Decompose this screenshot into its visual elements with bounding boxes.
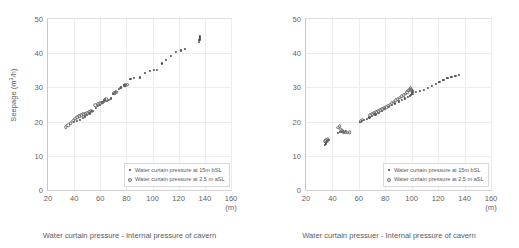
- data-point-series-0: [108, 99, 110, 101]
- data-point-series-0: [434, 83, 436, 85]
- data-point-series-0: [419, 90, 421, 92]
- gridline-vertical: [359, 19, 360, 190]
- chart-panel-seepage: Seepage (m3/h) 20406080100120140160(m)01…: [0, 0, 259, 248]
- data-point-series-0: [149, 70, 151, 72]
- data-point-series-0: [184, 48, 186, 50]
- x-axis-tick-label: 40: [70, 194, 78, 203]
- y-axis-tick-label: 0: [39, 186, 43, 195]
- data-point-series-1: [348, 130, 352, 134]
- data-point-series-0: [430, 85, 432, 87]
- gridline-horizontal: [306, 156, 491, 157]
- data-point-series-0: [110, 97, 112, 99]
- data-point-series-1: [410, 89, 414, 93]
- y-axis-tick-label: 20: [35, 117, 43, 126]
- x-axis-tick-label: 100: [146, 194, 159, 203]
- x-axis-tick-label: 80: [122, 194, 130, 203]
- data-point-series-1: [119, 86, 123, 90]
- data-point-series-0: [415, 91, 417, 93]
- x-axis-tick-label: 60: [96, 194, 104, 203]
- x-axis-unit-label: (m): [225, 203, 236, 212]
- legend-item-2.5m-asl: Water curtain pressure at 2.5 m aSL: [387, 175, 484, 183]
- x-axis-tick-label: 120: [432, 194, 445, 203]
- y-axis-tick-label: 30: [293, 83, 301, 92]
- gridline-horizontal: [306, 53, 491, 54]
- legend-item-15m-bsl: Water curtain pressure at 15m bSL: [387, 166, 484, 174]
- y-axis-tick-label: 10: [293, 151, 301, 160]
- gridline-vertical: [491, 19, 492, 190]
- x-axis-tick-label: 160: [485, 194, 498, 203]
- figure-container: Seepage (m3/h) 20406080100120140160(m)01…: [0, 0, 519, 248]
- data-point-series-0: [156, 69, 158, 71]
- data-point-series-0: [404, 97, 406, 99]
- gridline-horizontal: [306, 122, 491, 123]
- x-axis-tick-label: 120: [172, 194, 185, 203]
- y-axis-tick-label: 20: [293, 117, 301, 126]
- data-point-series-0: [175, 51, 177, 53]
- x-axis-tick-label: 20: [302, 194, 310, 203]
- data-point-series-0: [454, 75, 456, 77]
- x-axis-title-seepage: Water curtain pressure - Internal pressu…: [0, 231, 259, 240]
- legend-marker-filled-icon: [129, 169, 131, 171]
- data-point-series-0: [82, 117, 84, 119]
- y-axis-tick-label: 50: [293, 15, 301, 24]
- x-axis-unit-label: (m): [485, 203, 496, 212]
- x-axis-tick-label: 40: [328, 194, 336, 203]
- legend-label: Water curtain pressure at 2.5 m aSL: [135, 175, 225, 183]
- legend-label: Water curtain pressure at 2.5 m aSL: [394, 175, 484, 183]
- data-point-series-0: [450, 76, 452, 78]
- data-point-series-0: [442, 79, 444, 81]
- data-point-series-0: [133, 77, 135, 79]
- legend-marker-open-icon: [387, 178, 391, 182]
- data-point-series-0: [129, 78, 131, 80]
- y-axis-tick-label: 10: [35, 151, 43, 160]
- gridline-vertical: [74, 19, 75, 190]
- data-point-series-0: [438, 80, 440, 82]
- data-point-series-0: [79, 118, 81, 120]
- data-point-series-0: [170, 55, 172, 57]
- data-point-series-1: [114, 90, 118, 94]
- y-axis-title-seepage: Seepage (m3/h): [6, 0, 20, 190]
- y-axis-tick-label: 40: [35, 49, 43, 58]
- y-axis-tick-label: 40: [293, 49, 301, 58]
- data-point-series-0: [446, 77, 448, 79]
- gridline-horizontal: [48, 156, 231, 157]
- y-axis-tick-label: 50: [35, 15, 43, 24]
- data-point-series-0: [199, 35, 201, 37]
- gridline-vertical: [231, 19, 232, 190]
- legend-label: Water curtain pressure at 15m bSL: [394, 166, 481, 174]
- legend-water-supply: Water curtain pressure at 15m bSL Water …: [383, 163, 489, 187]
- x-axis-tick-label: 80: [381, 194, 389, 203]
- data-point-series-0: [426, 87, 428, 89]
- x-axis-title-water-supply: Water curtain pressuer - Internal pressu…: [259, 231, 519, 240]
- data-point-series-0: [138, 76, 140, 78]
- data-point-series-0: [423, 89, 425, 91]
- data-point-series-0: [165, 59, 167, 61]
- legend-item-2.5m-asl: Water curtain pressure at 2.5 m aSL: [128, 175, 225, 183]
- x-axis-tick-label: 140: [199, 194, 212, 203]
- data-point-series-0: [144, 72, 146, 74]
- data-point-series-1: [326, 137, 330, 141]
- data-point-series-1: [125, 83, 129, 87]
- x-axis-tick-label: 100: [405, 194, 418, 203]
- legend-label: Water curtain pressure at 15m bSL: [135, 166, 222, 174]
- x-axis-tick-label: 160: [225, 194, 238, 203]
- data-point-series-1: [361, 118, 365, 122]
- x-axis-tick-label: 20: [44, 194, 52, 203]
- data-point-series-0: [458, 74, 460, 76]
- gridline-horizontal: [306, 87, 491, 88]
- gridline-vertical: [332, 19, 333, 190]
- data-point-series-0: [161, 62, 163, 64]
- x-axis-tick-label: 140: [458, 194, 471, 203]
- data-point-series-0: [180, 49, 182, 51]
- data-point-series-0: [153, 69, 155, 71]
- x-axis-tick-label: 60: [355, 194, 363, 203]
- data-point-series-1: [104, 98, 108, 102]
- chart-panel-water-supply: Water supply (m3/h) 20406080100120140160…: [259, 0, 519, 248]
- y-axis-tick-label: 0: [297, 186, 301, 195]
- data-point-series-1: [89, 110, 93, 114]
- gridline-horizontal: [48, 53, 231, 54]
- legend-marker-open-icon: [128, 178, 132, 182]
- data-point-series-0: [366, 118, 368, 120]
- legend-seepage: Water curtain pressure at 15m bSL Water …: [124, 163, 230, 187]
- gridline-horizontal: [48, 87, 231, 88]
